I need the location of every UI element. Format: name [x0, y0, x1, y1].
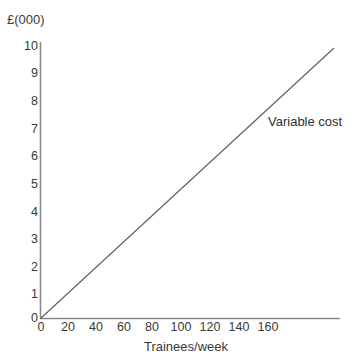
x-axis-title: Trainees/week: [0, 339, 354, 355]
y-tick-label: 9: [12, 67, 38, 80]
variable-cost-line: [41, 48, 335, 319]
plot-area: [0, 0, 354, 364]
x-axis-title-text: Trainees/week: [144, 339, 228, 354]
y-tick-label: 2: [12, 261, 38, 274]
y-tick-label: 6: [12, 150, 38, 163]
y-tick-label: 8: [12, 95, 38, 108]
y-tick-label: 10: [12, 40, 38, 53]
y-tick-label: 7: [12, 123, 38, 136]
y-tick-label: 5: [12, 178, 38, 191]
chart-figure: £(000) 10 9 8 7 6 5 4 3 2 1 0 0 20 40 60…: [0, 0, 354, 364]
y-tick-label: 3: [12, 233, 38, 246]
variable-cost-annotation: Variable cost: [268, 114, 342, 129]
y-tick-label: 1: [12, 288, 38, 301]
y-tick-label: 4: [12, 206, 38, 219]
x-tick-label: 160: [248, 321, 288, 334]
